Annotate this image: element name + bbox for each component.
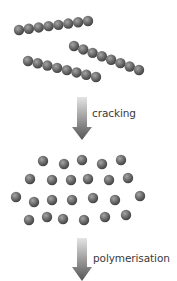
small-molecule-sphere (100, 212, 110, 222)
small-molecule-sphere (29, 197, 39, 207)
down-arrow-icon (72, 238, 92, 281)
small-molecule-sphere (77, 155, 87, 165)
atom-sphere (42, 60, 52, 70)
atom-sphere (91, 72, 101, 82)
small-molecule-sphere (47, 175, 57, 185)
atom-sphere (73, 17, 83, 27)
long-chain-1 (14, 16, 93, 35)
small-molecule-sphere (79, 215, 89, 225)
cracking-label: cracking (92, 107, 136, 119)
small-molecule-sphere (11, 192, 21, 202)
small-molecule-sphere (83, 174, 93, 184)
small-molecules (11, 155, 145, 225)
atom-sphere (52, 63, 62, 73)
atom-sphere (115, 58, 125, 68)
cracking-polymerisation-diagram (0, 0, 177, 281)
small-molecule-sphere (135, 191, 145, 201)
polymerisation-label: polymerisation (93, 252, 170, 264)
small-molecule-sphere (59, 159, 69, 169)
atom-sphere (33, 58, 43, 68)
atom-sphere (24, 24, 34, 34)
small-molecule-sphere (104, 175, 114, 185)
atom-sphere (53, 20, 63, 30)
atom-sphere (43, 21, 53, 31)
small-molecule-sphere (47, 195, 57, 205)
small-molecule-sphere (42, 212, 52, 222)
atom-sphere (69, 41, 79, 51)
small-molecule-sphere (38, 156, 48, 166)
small-molecule-sphere (110, 195, 120, 205)
down-arrow-icon (72, 97, 92, 140)
small-molecule-sphere (97, 159, 107, 169)
atom-sphere (134, 65, 144, 75)
small-molecule-sphere (123, 173, 133, 183)
long-chain-molecules (14, 16, 144, 82)
atom-sphere (106, 55, 116, 65)
atom-sphere (71, 67, 81, 77)
atom-sphere (125, 61, 135, 71)
atom-sphere (14, 25, 24, 35)
atom-sphere (97, 51, 107, 61)
atom-sphere (81, 70, 91, 80)
small-molecule-sphere (24, 215, 34, 225)
small-molecule-sphere (116, 155, 126, 165)
small-molecule-sphere (58, 214, 68, 224)
atom-sphere (62, 65, 72, 75)
small-molecule-sphere (121, 210, 131, 220)
atom-sphere (23, 56, 33, 66)
small-molecule-sphere (67, 195, 77, 205)
small-molecule-sphere (66, 175, 76, 185)
small-molecule-sphere (88, 193, 98, 203)
atom-sphere (78, 44, 88, 54)
long-chain-3 (23, 56, 101, 82)
atom-sphere (83, 16, 93, 26)
atom-sphere (34, 22, 44, 32)
atom-sphere (63, 18, 73, 28)
process-arrows (72, 97, 92, 281)
atom-sphere (87, 48, 97, 58)
small-molecule-sphere (25, 174, 35, 184)
